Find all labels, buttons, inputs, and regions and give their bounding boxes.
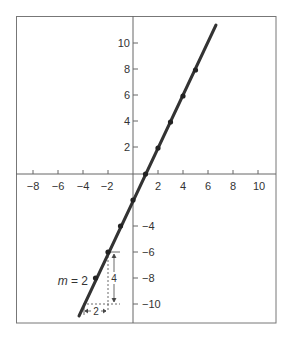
run-arrowhead-right: [103, 309, 106, 313]
x-tick-label: 8: [230, 180, 236, 192]
slope-label: m = 2: [58, 274, 89, 288]
x-tick-label: 10: [253, 180, 265, 192]
y-tick-label: 4: [124, 115, 130, 127]
data-point: [168, 119, 173, 124]
run-arrowhead-left: [85, 309, 88, 313]
data-point: [155, 145, 160, 150]
data-point: [93, 275, 98, 280]
x-tick-labels: −8 −6 −4 −2 2 4 6 8 10: [27, 180, 265, 192]
y-tick-labels-negative: −4 −6 −8 −10: [142, 220, 161, 310]
x-tick-label: 6: [205, 180, 211, 192]
x-tick-label: −2: [101, 180, 114, 192]
y-tick-label: 8: [124, 63, 130, 75]
data-point: [143, 171, 148, 176]
rise-arrowhead-down: [112, 298, 116, 302]
data-point: [193, 67, 198, 72]
data-point: [105, 249, 110, 254]
run-label: 2: [93, 306, 99, 317]
y-tick-label: 6: [124, 89, 130, 101]
rise-label: 4: [111, 273, 117, 284]
y-tick-label: −4: [142, 220, 155, 232]
data-point: [180, 93, 185, 98]
x-tick-label: −6: [52, 180, 65, 192]
y-tick-label: 2: [124, 141, 130, 153]
data-point: [130, 197, 135, 202]
y-tick-label: −8: [142, 272, 155, 284]
y-tick-labels-positive: 10 8 6 4 2: [118, 37, 130, 153]
y-tick-label: −6: [142, 246, 155, 258]
y-tick-label: −10: [142, 298, 161, 310]
y-tick-label: 10: [118, 37, 130, 49]
slope-label-value: = 2: [68, 274, 89, 288]
rise-arrowhead-up: [112, 254, 116, 258]
x-tick-label: 4: [180, 180, 186, 192]
x-tick-label: −4: [77, 180, 90, 192]
x-tick-label: −8: [27, 180, 40, 192]
line-chart: −8 −6 −4 −2 2 4 6 8 10 10 8 6 4 2 −4 −6 …: [0, 0, 292, 340]
data-point: [118, 223, 123, 228]
x-tick-label: 2: [155, 180, 161, 192]
slope-label-m: m: [58, 274, 68, 288]
